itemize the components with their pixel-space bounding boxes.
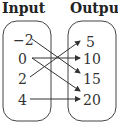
output-value: 10 bbox=[83, 52, 101, 66]
output-value: 5 bbox=[86, 35, 95, 49]
output-value: 20 bbox=[83, 93, 101, 107]
mapping-arrows bbox=[30, 39, 80, 99]
input-value: 2 bbox=[18, 72, 27, 86]
mapping-diagram: Input Output −2 0 2 4 5 10 15 20 bbox=[0, 0, 118, 123]
input-value: −2 bbox=[13, 33, 34, 47]
output-value: 15 bbox=[83, 72, 101, 86]
input-value: 4 bbox=[18, 93, 27, 107]
input-value: 0 bbox=[18, 52, 27, 66]
